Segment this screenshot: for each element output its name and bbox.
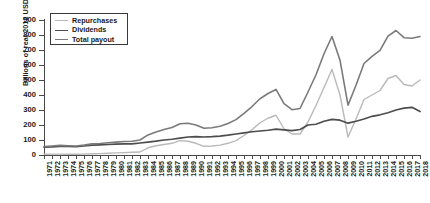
legend-item: Total payout [54,35,124,44]
legend-label: Total payout [72,36,114,43]
chart-legend: RepurchasesDividendsTotal payout [50,13,128,45]
chart-container: Billions of real 2012 USD 01002003004005… [0,0,430,203]
series-line [44,31,420,147]
legend-swatch [55,30,68,31]
legend-swatch [55,39,68,40]
legend-item: Dividends [54,25,124,34]
series-line [44,70,420,155]
legend-item: Repurchases [54,16,124,25]
legend-swatch [55,20,68,21]
legend-label: Dividends [72,26,106,33]
legend-label: Repurchases [72,17,117,24]
